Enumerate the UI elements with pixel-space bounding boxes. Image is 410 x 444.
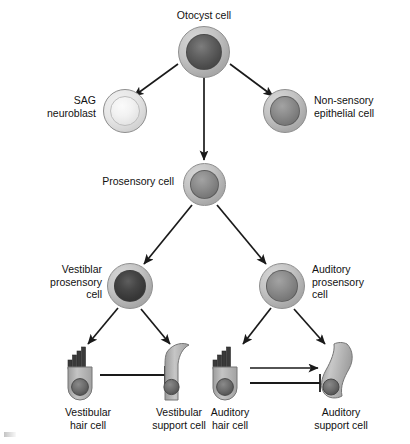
auditory-prosensory-cell-label: Auditory prosensory cell bbox=[312, 263, 388, 301]
otocyst-cell bbox=[178, 26, 230, 78]
vestibular-hair-cell bbox=[62, 342, 108, 404]
edge-vestibular-to-support bbox=[141, 309, 170, 344]
edge-vestibular-hair-inhibits-support bbox=[100, 366, 165, 384]
otocyst-cell-nucleus bbox=[186, 34, 222, 70]
sag-neuroblast-label: SAG neuroblast bbox=[18, 94, 96, 119]
stereocilia-bundle bbox=[213, 347, 231, 369]
prosensory-cell bbox=[183, 163, 226, 206]
non-sensory-epithelial-nucleus bbox=[270, 96, 300, 126]
vestibular-prosensory-nucleus bbox=[114, 270, 146, 302]
hair-cell-nucleus bbox=[217, 379, 234, 396]
vestibular-prosensory-cell bbox=[107, 263, 153, 309]
auditory-support-cell bbox=[318, 342, 364, 404]
edge-otocyst-to-sag bbox=[134, 64, 178, 96]
edge-auditory-to-hair bbox=[243, 308, 271, 344]
auditory-prosensory-cell bbox=[259, 263, 305, 309]
prosensory-cell-membrane bbox=[183, 163, 226, 206]
auditory-support-cell-label: Auditory support cell bbox=[291, 406, 391, 431]
lineage-diagram: Otocyst cell SAG neuroblast Non-sensory … bbox=[0, 0, 410, 444]
edge-otocyst-to-nonsensory bbox=[230, 64, 273, 96]
auditory-hair-cell-label: Auditory hair cell bbox=[182, 406, 278, 431]
non-sensory-epithelial-label: Non-sensory epithelial cell bbox=[314, 94, 408, 119]
prosensory-cell-nucleus bbox=[190, 170, 220, 200]
non-sensory-epithelial-membrane bbox=[263, 89, 307, 133]
auditory-prosensory-nucleus bbox=[266, 270, 298, 302]
auditory-hair-cell bbox=[207, 342, 253, 404]
vestibular-hair-cell-label: Vestibular hair cell bbox=[38, 406, 138, 431]
stereocilia-bundle bbox=[68, 347, 86, 369]
support-cell-nucleus bbox=[164, 379, 179, 394]
sag-neuroblast-membrane bbox=[103, 89, 147, 133]
prosensory-cell-label: Prosensory cell bbox=[70, 175, 174, 188]
sag-neuroblast-nucleus bbox=[110, 96, 140, 126]
support-cell-nucleus bbox=[323, 379, 339, 395]
edge-auditory-to-support bbox=[294, 309, 325, 344]
vestibular-prosensory-membrane bbox=[107, 263, 153, 309]
non-sensory-epithelial-cell bbox=[263, 89, 307, 133]
scan-artifact bbox=[4, 432, 16, 437]
hair-cell-nucleus bbox=[72, 379, 89, 396]
edge-vestibular-to-hair bbox=[88, 308, 118, 344]
otocyst-cell-membrane bbox=[178, 26, 230, 78]
sag-neuroblast-cell bbox=[103, 89, 147, 133]
vestibular-prosensory-cell-label: Vestiblar prosensory cell bbox=[28, 263, 102, 301]
edge-prosensory-to-vestibular bbox=[144, 205, 192, 264]
edge-prosensory-to-auditory bbox=[217, 205, 266, 264]
auditory-prosensory-membrane bbox=[259, 263, 305, 309]
otocyst-cell-label: Otocyst cell bbox=[154, 9, 254, 22]
vestibular-support-cell bbox=[160, 342, 196, 404]
edge-auditory-hair-inhibits-support bbox=[250, 374, 320, 392]
